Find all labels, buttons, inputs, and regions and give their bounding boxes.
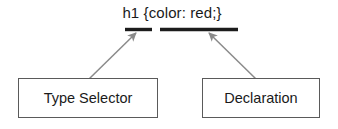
node-declaration-label: Declaration — [224, 90, 297, 106]
arrow-type-selector — [89, 33, 136, 79]
node-declaration: Declaration — [202, 78, 320, 118]
node-type-selector-label: Type Selector — [44, 90, 133, 106]
diagram-canvas: h1 {color: red;} Type Selector Declarati… — [0, 0, 338, 129]
node-type-selector: Type Selector — [18, 78, 158, 118]
arrow-declaration — [209, 33, 256, 79]
